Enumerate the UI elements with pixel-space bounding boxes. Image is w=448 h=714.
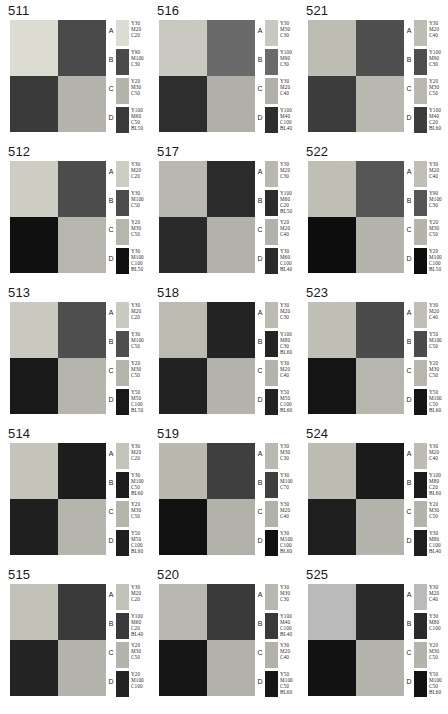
swatch-row: DY100M60C50BL50 xyxy=(107,107,148,133)
swatch-color-chip xyxy=(414,613,427,639)
quadrant-top-right xyxy=(356,584,404,640)
swatch-letter: C xyxy=(256,85,264,93)
swatch-color-chip xyxy=(265,642,278,668)
swatch-letter: C xyxy=(256,508,264,516)
swatch-color-chip xyxy=(414,20,427,46)
swatch-row: CY20M30C50 xyxy=(107,501,148,527)
swatch-row: AY30M20C20 xyxy=(107,20,148,46)
quadrant-top-left xyxy=(10,302,58,358)
swatch-row: CY20M20C40 xyxy=(256,219,297,245)
swatch-ink-values: Y20M30C50 xyxy=(429,642,448,660)
swatch-letter: B xyxy=(405,56,413,64)
swatch-ink-values: Y30M20C40 xyxy=(429,302,448,320)
swatch-letter: D xyxy=(107,255,115,263)
swatch-letter: D xyxy=(107,678,115,686)
swatch-letter: A xyxy=(256,450,264,458)
swatch-ink-values: Y100M90C30 xyxy=(429,49,448,67)
swatch-color-chip xyxy=(116,472,129,498)
quadrant-bottom-right xyxy=(207,217,255,273)
quadrant-top-right xyxy=(207,161,255,217)
swatch-row: DY50M100C50BL60 xyxy=(405,389,446,415)
panel-id-label: 519 xyxy=(157,427,179,441)
swatch-color-chip xyxy=(265,530,278,556)
swatch-row: AY30M20C40 xyxy=(405,161,446,187)
quadrant-bottom-left xyxy=(308,499,356,555)
swatch-ink-values: Y100M80C20BL60 xyxy=(429,472,448,496)
quadrant-block xyxy=(10,20,106,132)
swatch-letter: B xyxy=(405,338,413,346)
swatch-row: CY20M30C50 xyxy=(107,78,148,104)
swatch-color-chip xyxy=(116,584,129,610)
swatch-ink-values: Y50M100C50BL60 xyxy=(429,671,448,695)
swatch-color-chip xyxy=(265,331,278,357)
quadrant-bottom-left xyxy=(308,358,356,414)
quadrant-block xyxy=(10,443,106,555)
swatch-letter: A xyxy=(405,450,413,458)
swatch-ink-values: Y20M30C50 xyxy=(429,360,448,378)
quadrant-bottom-right xyxy=(356,217,404,273)
quadrant-block xyxy=(308,161,404,273)
ink-value: C30 xyxy=(429,202,448,208)
swatch-row: BY30M100C50 xyxy=(107,190,148,216)
swatch-legend: AY30M20C30BY100M80C30BL60CY30M20C40DY50M… xyxy=(256,302,297,414)
swatch-row: DY50M50C100BL60 xyxy=(107,530,148,556)
quadrant-bottom-left xyxy=(10,76,58,132)
swatch-color-chip xyxy=(116,642,129,668)
swatch-row: BY100M40C100BL40 xyxy=(256,613,297,639)
swatch-color-chip xyxy=(265,161,278,187)
swatch-color-chip xyxy=(116,248,129,274)
swatch-color-chip xyxy=(265,78,278,104)
swatch-ink-values: Y50M100C50 xyxy=(429,331,448,349)
quadrant-bottom-right xyxy=(58,499,106,555)
swatch-color-chip xyxy=(116,530,129,556)
swatch-color-chip xyxy=(265,107,278,133)
quadrant-top-right xyxy=(207,443,255,499)
swatch-letter: C xyxy=(107,85,115,93)
quadrant-top-left xyxy=(159,584,207,640)
swatch-letter: C xyxy=(107,508,115,516)
quadrant-block xyxy=(308,302,404,414)
ink-value: BL60 xyxy=(429,490,448,496)
color-patch-panel: 524AY30M20C40BY100M80C20BL60CY20M30C50DY… xyxy=(298,425,446,567)
quadrant-top-right xyxy=(58,302,106,358)
swatch-row: CY30M20C40 xyxy=(256,642,297,668)
quadrant-bottom-right xyxy=(207,499,255,555)
ink-value: BL60 xyxy=(429,689,448,695)
panel-id-label: 513 xyxy=(8,286,30,300)
swatch-row: DY50M50C100BL60 xyxy=(256,389,297,415)
quadrant-top-left xyxy=(159,161,207,217)
swatch-letter: D xyxy=(107,396,115,404)
panel-id-label: 521 xyxy=(306,4,328,18)
swatch-letter: C xyxy=(405,649,413,657)
swatch-color-chip xyxy=(116,161,129,187)
ink-value: C40 xyxy=(429,32,448,38)
swatch-color-chip xyxy=(116,671,129,697)
swatch-row: CY20M30C50 xyxy=(107,360,148,386)
quadrant-top-left xyxy=(308,302,356,358)
swatch-letter: B xyxy=(256,197,264,205)
swatch-color-chip xyxy=(116,20,129,46)
quadrant-top-right xyxy=(207,584,255,640)
swatch-color-chip xyxy=(265,584,278,610)
color-patch-panel: 523AY30M20C40BY50M100C50CY20M30C50DY50M1… xyxy=(298,284,446,426)
ink-value: C40 xyxy=(429,596,448,602)
quadrant-bottom-right xyxy=(356,640,404,696)
quadrant-top-right xyxy=(356,443,404,499)
swatch-color-chip xyxy=(265,443,278,469)
swatch-letter: B xyxy=(107,479,115,487)
swatch-color-chip xyxy=(414,107,427,133)
color-patch-panel: 518AY30M20C30BY100M80C30BL60CY30M20C40DY… xyxy=(149,284,297,426)
swatch-ink-values: Y30M20C40 xyxy=(429,443,448,461)
swatch-legend: AY30M20C20BY100M60C20BL40CY20M30C50DY20M… xyxy=(107,584,148,696)
quadrant-bottom-left xyxy=(308,217,356,273)
swatch-color-chip xyxy=(265,389,278,415)
swatch-row: AY30M30C30 xyxy=(256,20,297,46)
swatch-legend: AY30M20C40BY100M80C20BL60CY20M30C50DY30M… xyxy=(405,443,446,555)
swatch-letter: D xyxy=(405,114,413,122)
quadrant-bottom-right xyxy=(207,640,255,696)
color-patch-panel: 521AY30M20C40BY100M90C30CY20M30C50DY100M… xyxy=(298,2,446,144)
swatch-letter: A xyxy=(107,168,115,176)
swatch-legend: AY30M20C40BY30M80C100CY20M30C50DY50M100C… xyxy=(405,584,446,696)
swatch-letter: D xyxy=(256,255,264,263)
swatch-ink-values: Y20M30C50 xyxy=(429,78,448,96)
